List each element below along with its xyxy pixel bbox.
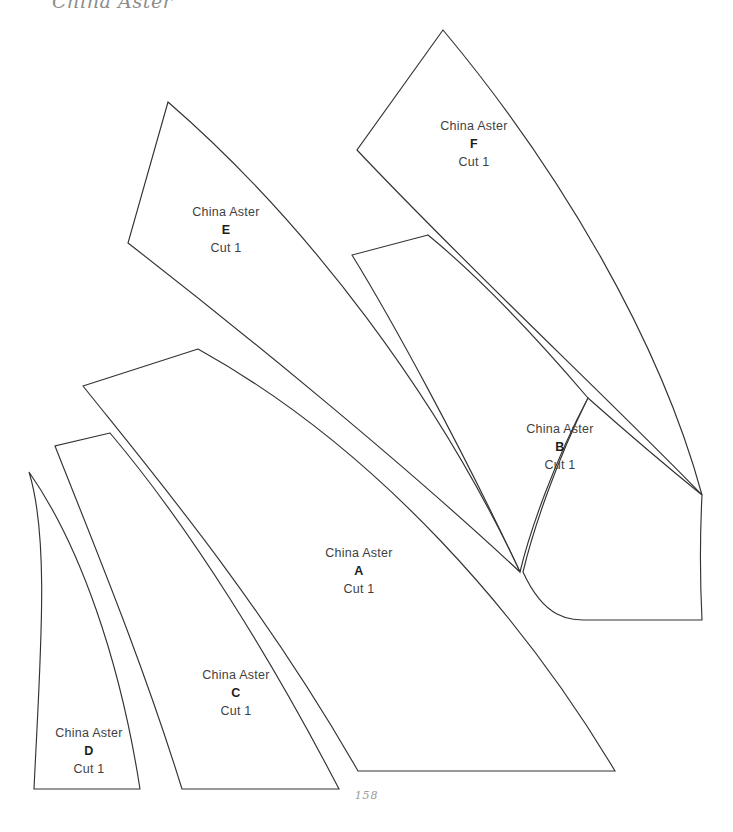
pattern-page: China Aster China AsterACut 1China Aster… [0, 0, 733, 832]
page-number: 158 [0, 789, 733, 802]
pattern-canvas [0, 0, 733, 832]
piece-shape-group [29, 30, 702, 789]
